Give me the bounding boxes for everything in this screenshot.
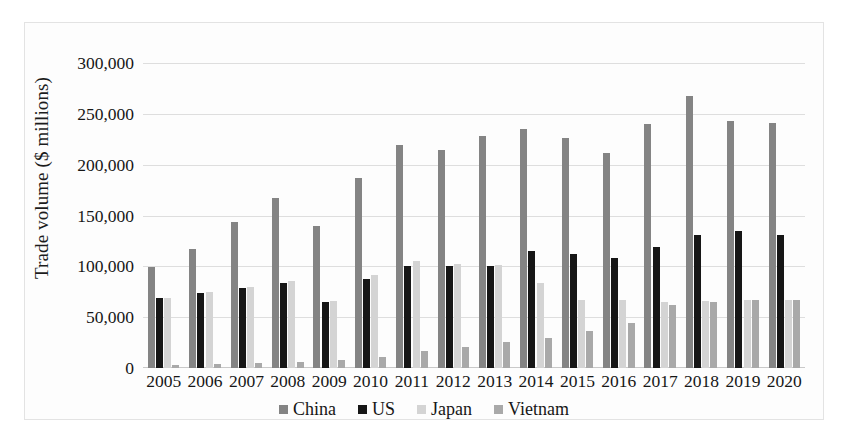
bar <box>785 300 792 368</box>
bar-group <box>764 63 805 368</box>
bar-group <box>391 63 432 368</box>
bar <box>156 298 163 368</box>
bar <box>446 266 453 368</box>
bar-group <box>184 63 225 368</box>
legend-item-vietnam[interactable]: Vietnam <box>494 399 569 420</box>
bar <box>313 226 320 368</box>
bar <box>727 121 734 368</box>
bar <box>288 281 295 368</box>
x-axis-tick-label: 2018 <box>681 371 722 392</box>
bar <box>694 235 701 368</box>
bar-group <box>309 63 350 368</box>
legend-item-japan[interactable]: Japan <box>417 399 472 420</box>
bar <box>338 360 345 368</box>
bar <box>503 342 510 368</box>
y-axis-tick-label: 0 <box>38 358 134 379</box>
bar <box>744 300 751 368</box>
bar <box>735 231 742 368</box>
bar <box>562 138 569 368</box>
legend-label: Vietnam <box>508 399 569 420</box>
bar <box>462 347 469 368</box>
x-axis-tick-label: 2007 <box>226 371 267 392</box>
bar <box>686 96 693 368</box>
x-axis-tick-label: 2016 <box>598 371 639 392</box>
x-axis-tick-label: 2020 <box>764 371 805 392</box>
bar-group <box>267 63 308 368</box>
y-axis-tick-label: 250,000 <box>38 103 134 124</box>
x-axis-tick-label: 2014 <box>515 371 556 392</box>
bar <box>404 266 411 368</box>
bar <box>379 357 386 368</box>
legend-swatch-icon <box>358 405 367 414</box>
y-axis-tick-label: 50,000 <box>38 307 134 328</box>
bar <box>421 351 428 368</box>
x-axis-tick-label: 2009 <box>309 371 350 392</box>
legend-item-us[interactable]: US <box>358 399 395 420</box>
bar <box>653 247 660 368</box>
bar-group <box>433 63 474 368</box>
bar <box>661 302 668 368</box>
bar <box>752 300 759 368</box>
bar <box>669 305 676 368</box>
plot-area: 300,000250,000200,000150,000100,00050,00… <box>143 63 805 368</box>
bar <box>197 293 204 368</box>
legend-label: Japan <box>431 399 472 420</box>
bar <box>297 362 304 368</box>
bar <box>619 300 626 368</box>
bar <box>239 288 246 368</box>
bar-group <box>515 63 556 368</box>
x-axis-tick-label: 2008 <box>267 371 308 392</box>
bar <box>603 153 610 368</box>
bar-group <box>598 63 639 368</box>
bar <box>355 178 362 368</box>
bar <box>479 136 486 368</box>
bar <box>396 145 403 368</box>
bar <box>363 279 370 368</box>
x-axis-tick-label: 2013 <box>474 371 515 392</box>
x-axis-tick-label: 2015 <box>557 371 598 392</box>
bar-group <box>350 63 391 368</box>
x-axis-tick-label: 2019 <box>722 371 763 392</box>
bar <box>164 298 171 368</box>
bar-group <box>557 63 598 368</box>
chart-figure: Trade volume ($ millions) 300,000250,000… <box>24 22 824 420</box>
bar <box>545 338 552 369</box>
chart-legend: ChinaUSJapanVietnam <box>25 399 823 420</box>
bar-group <box>681 63 722 368</box>
bar <box>272 198 279 368</box>
bar-group <box>474 63 515 368</box>
y-axis-tick-label: 300,000 <box>38 53 134 74</box>
bar <box>528 251 535 368</box>
bar <box>206 292 213 368</box>
legend-swatch-icon <box>279 405 288 414</box>
bar <box>611 258 618 368</box>
bar <box>777 235 784 368</box>
y-axis-tick-label: 150,000 <box>38 205 134 226</box>
bar <box>710 302 717 368</box>
legend-item-china[interactable]: China <box>279 399 336 420</box>
x-axis-tick-label: 2010 <box>350 371 391 392</box>
bar <box>172 365 179 368</box>
x-axis-labels: 2005200620072008200920102011201220132014… <box>143 371 805 392</box>
bar <box>255 363 262 368</box>
bar <box>438 150 445 368</box>
bar <box>454 264 461 368</box>
legend-swatch-icon <box>494 405 503 414</box>
x-axis-tick-label: 2012 <box>433 371 474 392</box>
y-axis-tick-label: 200,000 <box>38 154 134 175</box>
bar <box>231 222 238 368</box>
bar-group <box>143 63 184 368</box>
bar <box>214 364 221 368</box>
bar <box>495 265 502 368</box>
x-axis-tick-label: 2017 <box>640 371 681 392</box>
bar <box>537 283 544 368</box>
bar <box>570 254 577 368</box>
bar-group <box>722 63 763 368</box>
bar <box>280 283 287 368</box>
bar <box>578 300 585 368</box>
legend-label: US <box>372 399 395 420</box>
bar-group <box>226 63 267 368</box>
bar <box>330 301 337 368</box>
bar <box>769 123 776 368</box>
bar <box>247 287 254 368</box>
